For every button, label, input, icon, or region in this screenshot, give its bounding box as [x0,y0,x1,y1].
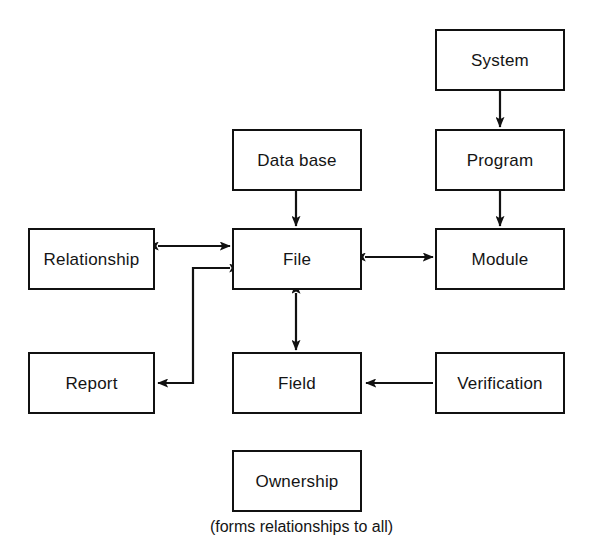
node-label-relationship: Relationship [44,251,140,268]
node-file[interactable]: File [232,228,362,290]
diagram-caption: (forms relationships to all) [0,518,603,536]
node-label-file: File [283,251,311,268]
node-label-verification: Verification [457,375,543,392]
node-label-report: Report [65,375,117,392]
node-label-field: Field [278,375,316,392]
node-module[interactable]: Module [435,228,565,290]
node-database[interactable]: Data base [232,129,362,191]
connector-file-to-report [158,268,230,383]
node-field[interactable]: Field [232,352,362,414]
node-verification[interactable]: Verification [435,352,565,414]
node-label-program: Program [467,152,534,169]
node-system[interactable]: System [435,29,565,91]
node-label-module: Module [472,251,529,268]
node-report[interactable]: Report [28,352,155,414]
node-ownership[interactable]: Ownership [232,450,362,512]
node-label-system: System [471,52,529,69]
diagram-canvas: System Program Module Verification Data … [0,0,603,556]
node-relationship[interactable]: Relationship [28,228,155,290]
node-label-ownership: Ownership [255,473,338,490]
node-program[interactable]: Program [435,129,565,191]
node-label-database: Data base [257,152,336,169]
